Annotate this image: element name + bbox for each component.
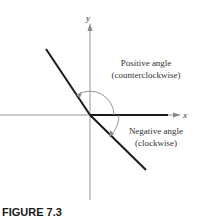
figure-caption: FIGURE 7.3	[2, 206, 62, 218]
x-axis-arrow-icon	[173, 113, 181, 118]
angle-diagram: y x Positive angle (counterclockwise) Ne…	[0, 0, 199, 220]
negative-angle-label-1: Negative angle	[129, 126, 183, 136]
y-axis-label: y	[85, 13, 90, 23]
y-axis-arrow-icon	[88, 23, 93, 31]
negative-angle-label-2: (clockwise)	[135, 138, 177, 148]
positive-angle-label-2: (counterclockwise)	[112, 70, 181, 80]
x-axis-label: x	[182, 110, 187, 120]
positive-angle-label-1: Positive angle	[121, 58, 172, 68]
positive-terminal-ray	[46, 49, 90, 115]
